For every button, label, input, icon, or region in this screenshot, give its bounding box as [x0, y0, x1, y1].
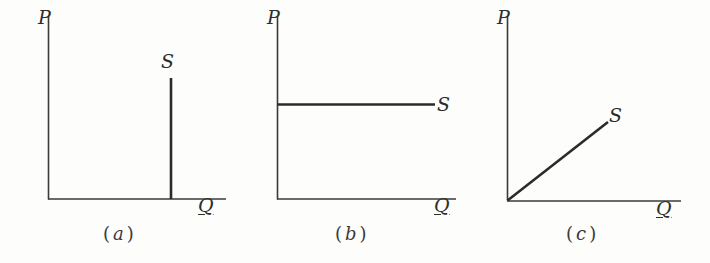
supply-curve-figure: P Q S (a) P Q S (b) P Q S (c)	[0, 0, 710, 263]
panel-caption-a: (a)	[103, 225, 135, 243]
supply-curve-label: S	[609, 106, 622, 125]
caption-letter: b	[343, 223, 360, 244]
supply-curve-label: S	[161, 52, 174, 71]
x-axis-label-quantity: Q	[434, 196, 450, 215]
caption-close-paren: )	[127, 223, 135, 244]
y-axis-label-price: P	[497, 8, 510, 27]
panel-caption-b: (b)	[335, 225, 368, 243]
supply-curve-label: S	[437, 95, 450, 114]
x-axis-label-quantity: Q	[198, 196, 214, 215]
caption-open-paren: (	[335, 223, 343, 244]
y-axis-label-price: P	[267, 8, 280, 27]
caption-open-paren: (	[103, 223, 111, 244]
panel-caption-c: (c)	[566, 225, 597, 243]
x-axis-label-quantity: Q	[656, 199, 672, 218]
caption-close-paren: )	[360, 223, 368, 244]
caption-letter: a	[111, 223, 127, 244]
panel-a: P Q S (a)	[0, 0, 235, 263]
caption-letter: c	[574, 223, 589, 244]
panel-b: P Q S (b)	[229, 0, 464, 263]
supply-curve-sloping	[508, 122, 609, 201]
y-axis-label-price: P	[38, 8, 51, 27]
panel-c: P Q S (c)	[459, 0, 694, 263]
caption-open-paren: (	[566, 223, 574, 244]
caption-close-paren: )	[589, 223, 597, 244]
